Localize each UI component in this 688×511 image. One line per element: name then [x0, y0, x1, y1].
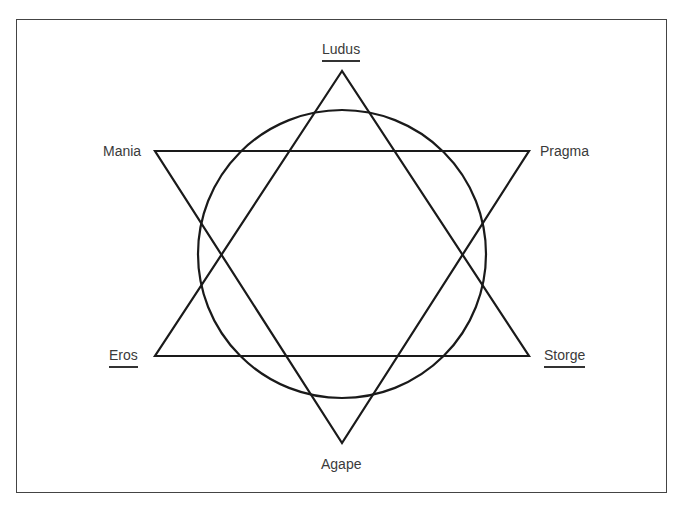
node-label-pragma: Pragma — [540, 143, 589, 159]
node-label-mania: Mania — [103, 143, 141, 159]
center-circle — [198, 110, 486, 398]
node-label-eros: Eros — [109, 347, 138, 368]
node-label-agape: Agape — [321, 456, 361, 472]
node-label-storge: Storge — [544, 347, 585, 368]
hexagram-diagram — [0, 0, 688, 511]
node-label-ludus: Ludus — [322, 41, 360, 62]
